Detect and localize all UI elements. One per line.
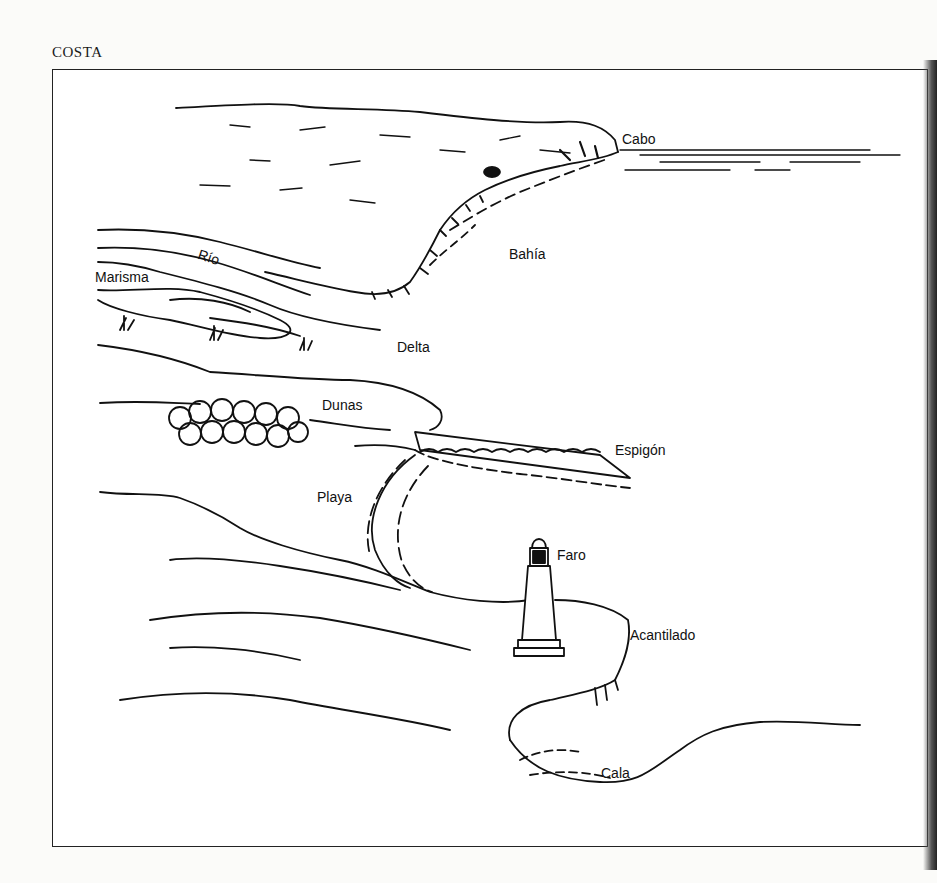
label-faro: Faro	[557, 548, 586, 562]
label-marisma: Marisma	[95, 270, 149, 284]
page-binding-shadow	[923, 60, 937, 870]
label-cala: Cala	[601, 766, 630, 780]
label-playa: Playa	[317, 490, 352, 504]
groyne	[415, 432, 630, 488]
beach	[355, 445, 432, 592]
coast-illustration	[0, 0, 937, 883]
label-espigon: Espigón	[615, 443, 666, 457]
label-dunas: Dunas	[322, 398, 362, 412]
cape-headland	[176, 104, 900, 299]
label-delta: Delta	[397, 340, 430, 354]
label-bahia: Bahía	[509, 247, 546, 261]
label-acantilado: Acantilado	[630, 628, 695, 642]
label-cabo: Cabo	[622, 132, 655, 146]
lower-headland	[100, 492, 860, 782]
river-marsh	[98, 230, 442, 431]
